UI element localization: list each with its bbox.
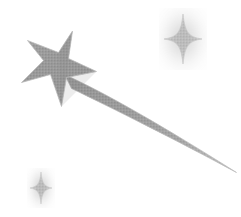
shooting-star-illustration <box>0 0 241 217</box>
artboard: Shooting Star <box>0 0 241 217</box>
